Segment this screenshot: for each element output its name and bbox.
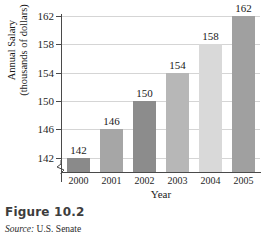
- gridline: [62, 158, 260, 159]
- x-axis-tick-label: 2004: [194, 176, 228, 186]
- bar-value-label: 154: [169, 60, 186, 71]
- x-axis-tick-label: 2002: [128, 176, 162, 186]
- gridline: [62, 73, 260, 74]
- bar: 142: [67, 158, 90, 172]
- source-text: U.S. Senate: [37, 224, 82, 234]
- bar: 162: [232, 16, 255, 172]
- x-axis-line: [61, 172, 261, 173]
- bar-value-label: 150: [136, 88, 153, 99]
- gridline: [62, 44, 260, 45]
- x-axis-tick-label: 2003: [161, 176, 195, 186]
- y-axis-tick-label: 158: [12, 39, 54, 50]
- figure-source: Source: U.S. Senate: [5, 224, 205, 234]
- plot-area: 142146150154158162: [62, 16, 260, 172]
- source-prefix: Source:: [5, 224, 34, 234]
- bar-value-label: 162: [235, 3, 252, 14]
- x-axis-title: Year: [62, 188, 260, 200]
- bar: 154: [166, 73, 189, 172]
- y-axis-tick-label: 154: [12, 67, 54, 78]
- y-axis-tick-label: 142: [12, 152, 54, 163]
- bar-value-label: 142: [70, 145, 87, 156]
- y-axis-tick-label: 162: [12, 11, 54, 22]
- bar: 150: [133, 101, 156, 172]
- y-axis-tick-label: 146: [12, 124, 54, 135]
- x-axis-tick-label: 2005: [227, 176, 261, 186]
- gridline: [62, 129, 260, 130]
- x-axis-tick-label: 2000: [62, 176, 96, 186]
- x-axis-tick-label: 2001: [95, 176, 129, 186]
- gridline: [62, 101, 260, 102]
- gridline: [62, 16, 260, 17]
- figure-number: Figure 10.2: [5, 206, 205, 219]
- figure-caption: Figure 10.2 Source: U.S. Senate: [5, 206, 205, 235]
- figure-container: Annual Salary (thousands of dollars) 142…: [0, 0, 269, 242]
- bar-value-label: 158: [202, 31, 219, 42]
- bar: 158: [199, 44, 222, 172]
- bar: 146: [100, 129, 123, 172]
- y-axis-tick-label: 150: [12, 96, 54, 107]
- bar-value-label: 146: [103, 116, 120, 127]
- bar-chart: Annual Salary (thousands of dollars) 142…: [0, 0, 269, 205]
